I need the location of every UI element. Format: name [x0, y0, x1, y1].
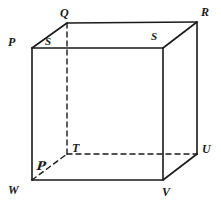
solid-edge-diagonal-bottom-right — [163, 154, 197, 180]
vertex-label-front-top-left: P — [8, 36, 15, 48]
dashed-edge-group — [32, 23, 197, 180]
vertex-label-top-left-inner: S — [45, 36, 51, 47]
vertex-label-back-bottom-right: U — [202, 143, 211, 155]
vertex-label-front-bottom-left: W — [8, 184, 19, 196]
solid-edge-back-top — [67, 22, 197, 23]
solid-edge-group — [32, 22, 197, 180]
vertex-label-back-bottom-left: T — [72, 142, 79, 154]
vertex-label-back-top-right: R — [201, 6, 209, 18]
vertex-label-front-bottom-right: V — [162, 186, 170, 198]
vertex-label-front-top-right: S — [151, 31, 157, 42]
cube-drawing — [0, 0, 221, 207]
cube-figure: PQRSSTUVW P — [0, 0, 221, 207]
annotation-label-script-p: P — [36, 160, 46, 172]
vertex-label-back-top-left: Q — [60, 7, 69, 19]
solid-edge-diagonal-top-right — [163, 22, 197, 48]
